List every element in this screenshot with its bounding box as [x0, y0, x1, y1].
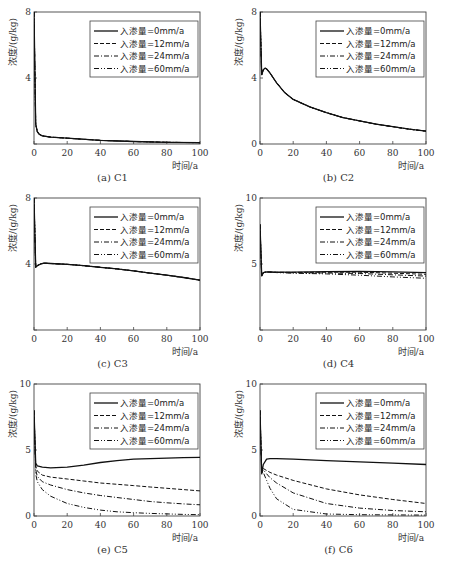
x-tick-label: 80	[161, 520, 173, 530]
legend-label: 入渗量=60mm/a	[120, 64, 190, 74]
line-chart: 02040608010048时间/a浓度/(g/kg)入渗量=0mm/a入渗量=…	[0, 0, 225, 168]
chart-panel-a: 02040608010048时间/a浓度/(g/kg)入渗量=0mm/a入渗量=…	[0, 0, 225, 186]
y-axis-label: 浓度/(g/kg)	[233, 18, 244, 66]
x-tick-label: 40	[321, 334, 333, 344]
y-axis-label: 浓度/(g/kg)	[7, 204, 18, 252]
x-axis-label: 时间/a	[172, 532, 199, 543]
legend-label: 入渗量=60mm/a	[120, 250, 190, 260]
legend-label: 入渗量=12mm/a	[346, 225, 416, 235]
y-tick-label: 10	[246, 379, 258, 389]
x-tick-label: 0	[257, 520, 263, 530]
chart-panel-c: 02040608010048时间/a浓度/(g/kg)入渗量=0mm/a入渗量=…	[0, 186, 225, 372]
x-tick-label: 20	[61, 334, 73, 344]
y-axis-label: 浓度/(g/kg)	[7, 18, 18, 66]
legend: 入渗量=0mm/a入渗量=12mm/a入渗量=24mm/a入渗量=60mm/a	[90, 393, 198, 449]
y-axis-label: 浓度/(g/kg)	[233, 204, 244, 252]
y-tick-label: 10	[20, 379, 32, 389]
x-tick-label: 40	[95, 148, 107, 158]
x-tick-label: 100	[191, 520, 208, 530]
x-tick-label: 40	[321, 520, 333, 530]
legend-label: 入渗量=12mm/a	[120, 411, 190, 421]
line-chart: 02040608010048时间/a浓度/(g/kg)入渗量=0mm/a入渗量=…	[0, 186, 225, 354]
y-tick-label: 8	[251, 7, 257, 17]
x-tick-label: 100	[417, 520, 434, 530]
legend-label: 入渗量=0mm/a	[120, 212, 184, 222]
x-tick-label: 20	[61, 148, 73, 158]
legend-label: 入渗量=60mm/a	[346, 64, 416, 74]
line-chart: 0204060801000510时间/a浓度/(g/kg)入渗量=0mm/a入渗…	[0, 372, 225, 540]
x-tick-label: 20	[61, 520, 73, 530]
y-axis-label: 浓度/(g/kg)	[233, 390, 244, 438]
legend-label: 入渗量=0mm/a	[346, 398, 410, 408]
y-tick-label: 5	[25, 445, 31, 455]
x-axis-label: 时间/a	[398, 346, 425, 357]
chart-panel-e: 0204060801000510时间/a浓度/(g/kg)入渗量=0mm/a入渗…	[0, 372, 225, 558]
legend-label: 入渗量=24mm/a	[346, 237, 416, 247]
x-axis-label: 时间/a	[398, 160, 425, 171]
y-axis-label: 浓度/(g/kg)	[7, 390, 18, 438]
legend-label: 入渗量=60mm/a	[346, 250, 416, 260]
x-tick-label: 40	[95, 520, 107, 530]
line-chart: 020406080100510时间/a浓度/(g/kg)入渗量=0mm/a入渗量…	[226, 186, 451, 354]
legend-label: 入渗量=0mm/a	[120, 26, 184, 36]
x-tick-label: 80	[161, 148, 173, 158]
x-tick-label: 0	[31, 334, 37, 344]
x-tick-label: 100	[191, 148, 208, 158]
line-chart: 0204060801000510时间/a浓度/(g/kg)入渗量=0mm/a入渗…	[226, 372, 451, 540]
panel-caption: (c) C3	[0, 358, 225, 369]
x-tick-label: 40	[95, 334, 107, 344]
x-tick-label: 60	[128, 148, 140, 158]
x-tick-label: 100	[417, 334, 434, 344]
x-tick-label: 100	[191, 334, 208, 344]
y-tick-label: 10	[246, 193, 258, 203]
y-tick-label: 4	[251, 73, 257, 83]
panel-caption: (e) C5	[0, 544, 225, 555]
legend: 入渗量=0mm/a入渗量=12mm/a入渗量=24mm/a入渗量=60mm/a	[316, 21, 424, 77]
x-axis-label: 时间/a	[398, 532, 425, 543]
x-axis-label: 时间/a	[172, 160, 199, 171]
legend-label: 入渗量=24mm/a	[120, 423, 190, 433]
chart-panel-f: 0204060801000510时间/a浓度/(g/kg)入渗量=0mm/a入渗…	[226, 372, 451, 558]
chart-panel-b: 020406080100048时间/a浓度/(g/kg)入渗量=0mm/a入渗量…	[226, 0, 451, 186]
x-tick-label: 60	[128, 520, 140, 530]
x-tick-label: 100	[417, 148, 434, 158]
x-tick-label: 0	[31, 148, 37, 158]
y-tick-label: 4	[25, 73, 31, 83]
y-tick-label: 8	[25, 7, 31, 17]
y-tick-label: 0	[25, 511, 31, 521]
y-tick-label: 0	[251, 511, 257, 521]
x-tick-label: 60	[354, 334, 366, 344]
x-tick-label: 80	[387, 334, 399, 344]
x-axis-label: 时间/a	[172, 346, 199, 357]
y-tick-label: 5	[251, 445, 257, 455]
x-tick-label: 0	[257, 148, 263, 158]
legend: 入渗量=0mm/a入渗量=12mm/a入渗量=24mm/a入渗量=60mm/a	[90, 207, 198, 263]
line-chart: 020406080100048时间/a浓度/(g/kg)入渗量=0mm/a入渗量…	[226, 0, 451, 168]
legend-label: 入渗量=12mm/a	[120, 39, 190, 49]
legend-label: 入渗量=60mm/a	[346, 436, 416, 446]
legend-label: 入渗量=0mm/a	[120, 398, 184, 408]
y-tick-label: 4	[25, 259, 31, 269]
chart-panel-d: 020406080100510时间/a浓度/(g/kg)入渗量=0mm/a入渗量…	[226, 186, 451, 372]
y-tick-label: 8	[25, 193, 31, 203]
legend-label: 入渗量=24mm/a	[120, 237, 190, 247]
legend: 入渗量=0mm/a入渗量=12mm/a入渗量=24mm/a入渗量=60mm/a	[90, 21, 198, 77]
x-tick-label: 80	[387, 148, 399, 158]
legend-label: 入渗量=24mm/a	[120, 51, 190, 61]
panel-caption: (d) C4	[226, 358, 451, 369]
x-tick-label: 60	[354, 520, 366, 530]
panel-caption: (b) C2	[226, 172, 451, 183]
legend-label: 入渗量=0mm/a	[346, 212, 410, 222]
legend-label: 入渗量=0mm/a	[346, 26, 410, 36]
x-tick-label: 0	[257, 334, 263, 344]
legend-label: 入渗量=24mm/a	[346, 51, 416, 61]
x-tick-label: 0	[31, 520, 37, 530]
legend-label: 入渗量=12mm/a	[346, 411, 416, 421]
legend: 入渗量=0mm/a入渗量=12mm/a入渗量=24mm/a入渗量=60mm/a	[316, 393, 424, 449]
panel-caption: (a) C1	[0, 172, 225, 183]
x-tick-label: 20	[287, 148, 299, 158]
x-tick-label: 60	[128, 334, 140, 344]
legend: 入渗量=0mm/a入渗量=12mm/a入渗量=24mm/a入渗量=60mm/a	[316, 207, 424, 263]
x-tick-label: 20	[287, 520, 299, 530]
y-tick-label: 5	[251, 259, 257, 269]
